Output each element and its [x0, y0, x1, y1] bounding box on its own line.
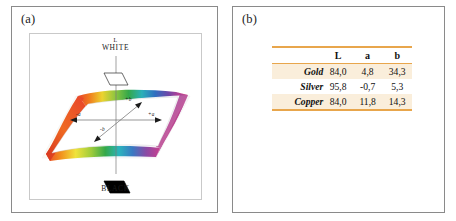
table-row: Gold 84,0 4,8 34,3	[272, 64, 412, 79]
row-label-copper: Copper	[272, 94, 323, 109]
white-pole-label: WHITE	[30, 44, 201, 52]
negative-b-axis-label: -b	[100, 127, 105, 132]
cell-silver-L: 95,8	[323, 79, 353, 94]
cielab-diagram-stage: L WHITE BLACK -a +a +b -b	[30, 34, 201, 199]
cell-gold-b: 34,3	[382, 64, 412, 79]
panel-b-label: (b)	[242, 12, 257, 27]
row-label-silver: Silver	[272, 79, 323, 94]
table-rule-bottom-row	[272, 109, 412, 111]
table-row: Silver 95,8 -0,7 5,3	[272, 79, 412, 94]
lab-values-table-wrapper: L a b Gold 84,0 4,8 34,3	[272, 46, 412, 111]
cielab-color-space-icon	[30, 34, 201, 199]
positive-b-axis-label: +b	[125, 97, 132, 102]
lab-values-table: L a b Gold 84,0 4,8 34,3	[272, 46, 412, 111]
column-header-blank	[272, 48, 323, 64]
column-header-b: b	[382, 48, 412, 64]
cielab-diagram-frame: L WHITE BLACK -a +a +b -b	[29, 33, 202, 200]
table-rule-bottom	[272, 109, 412, 111]
table-row: Copper 84,0 11,8 14,3	[272, 94, 412, 109]
table-header-row: L a b	[272, 48, 412, 64]
column-header-L: L	[323, 48, 353, 64]
cell-copper-L: 84,0	[323, 94, 353, 109]
white-plane-polygon	[104, 73, 128, 85]
cell-silver-a: -0,7	[353, 79, 383, 94]
cell-copper-a: 11,8	[353, 94, 383, 109]
column-header-a: a	[353, 48, 383, 64]
row-label-gold: Gold	[272, 64, 323, 79]
negative-a-axis-label: -a	[76, 112, 81, 117]
table-body: Gold 84,0 4,8 34,3 Silver 95,8 -0,7 5,3 …	[272, 64, 412, 111]
figure-root: (a)	[0, 0, 456, 221]
panel-a-label: (a)	[21, 12, 35, 27]
cell-gold-L: 84,0	[323, 64, 353, 79]
table-header: L a b	[272, 46, 412, 64]
cell-copper-b: 14,3	[382, 94, 412, 109]
panel-b: (b) L a b	[232, 6, 445, 213]
black-pole-label: BLACK	[30, 185, 201, 193]
positive-a-axis-label: +a	[148, 112, 155, 117]
table-rule-bottom-cell	[272, 109, 412, 111]
panel-a: (a)	[11, 6, 218, 213]
cell-gold-a: 4,8	[353, 64, 383, 79]
cell-silver-b: 5,3	[382, 79, 412, 94]
